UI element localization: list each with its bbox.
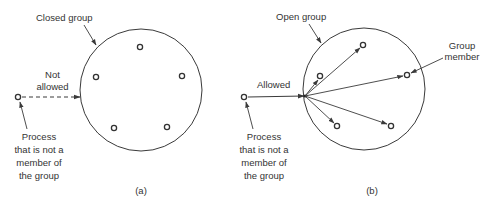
outsider-process-node (15, 94, 20, 99)
group-member-pointer (411, 58, 443, 73)
panel-a-caption: (a) (135, 185, 147, 196)
group-member-node (404, 72, 409, 77)
group-member-node (164, 124, 169, 129)
outsider-label-line2: that is not a (239, 144, 289, 155)
not-allowed-label-line1: Not (45, 69, 60, 80)
closed-group-label: Closed group (36, 12, 93, 23)
group-member-node (111, 125, 116, 130)
group-member-node (317, 73, 322, 78)
group-member-node (388, 123, 393, 128)
open-group-label: Open group (276, 11, 326, 22)
group-member-label-line2: member (445, 51, 480, 62)
panel-b-open-group: Open group Allowed Group member Process … (239, 11, 479, 196)
group-member-node (179, 73, 184, 78)
group-member-node (137, 44, 142, 49)
outsider-label-line4: the group (244, 170, 284, 181)
outsider-label-line4: the group (19, 170, 59, 181)
outsider-label-line1: Process (22, 131, 57, 142)
allowed-arrow (248, 96, 304, 97)
outsider-label-line1: Process (247, 131, 282, 142)
multicast-arrow (305, 96, 334, 123)
group-member-node (360, 42, 365, 47)
outsider-label-line2: that is not a (14, 144, 64, 155)
group-member-label-line1: Group (449, 40, 475, 51)
open-group-pointer (309, 24, 321, 43)
group-diagram: Closed group Not allowed Process that is… (0, 0, 490, 203)
outsider-pointer (20, 102, 27, 129)
outsider-label-line3: member of (241, 157, 287, 168)
outsider-pointer (246, 102, 253, 129)
multicast-arrow (305, 96, 387, 124)
allowed-label: Allowed (257, 79, 290, 90)
group-member-node (93, 74, 98, 79)
outsider-process-node (241, 94, 246, 99)
panel-b-caption: (b) (366, 185, 378, 196)
outsider-label-line3: member of (16, 157, 62, 168)
closed-group-pointer (84, 25, 96, 45)
panel-a-closed-group: Closed group Not allowed Process that is… (14, 12, 202, 196)
group-member-node (334, 123, 339, 128)
not-allowed-label-line2: allowed (36, 81, 68, 92)
